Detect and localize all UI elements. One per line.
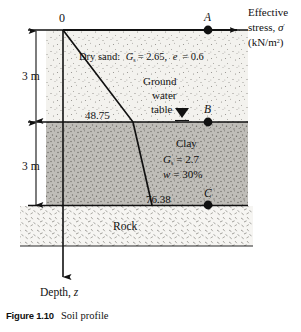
- svg-text:Effective: Effective: [248, 6, 288, 18]
- gwt-line3: table: [151, 103, 172, 115]
- stress-axis-line1: Effective: [248, 6, 288, 18]
- stress-value-c: 76.38: [146, 193, 171, 205]
- clay-gs-value: = 2.7: [176, 153, 199, 165]
- rock-label: Rock: [113, 220, 138, 232]
- point-b-marker: [204, 118, 213, 127]
- svg-text:w= 30%: w= 30%: [163, 168, 202, 180]
- point-a-marker: [204, 26, 213, 35]
- dimension-label-sand: 3 m: [22, 70, 40, 82]
- clay-gs-symbol: G: [163, 153, 171, 165]
- figure-title: Soil profile: [61, 310, 109, 321]
- svg-text:Gs= 2.7: Gs= 2.7: [163, 153, 200, 166]
- stress-axis-line2-prefix: stress,: [248, 21, 278, 33]
- sigma-prime: ′: [283, 23, 285, 29]
- point-c-label: C: [204, 187, 212, 199]
- depth-label-symbol: z: [73, 286, 79, 298]
- svg-text:(kN/m2): (kN/m2): [248, 36, 284, 49]
- origin-label: 0: [59, 11, 65, 25]
- clay-w-symbol: w: [163, 168, 171, 180]
- dry-sand-e-value: = 0.6: [182, 51, 204, 62]
- point-b-label: B: [204, 103, 211, 115]
- gwt-line2: water: [152, 89, 177, 101]
- stress-axis-units-close: ): [280, 36, 284, 49]
- figure-caption: Figure 1.10Soil profile: [6, 310, 296, 321]
- dimension-label-clay: 3 m: [22, 160, 40, 172]
- point-a-label: A: [203, 11, 212, 23]
- depth-label-prefix: Depth,: [40, 286, 74, 299]
- stress-axis-label: Effective stress, σ′ (kN/m2): [248, 6, 288, 49]
- dry-sand-gs-value: = 2.65,: [138, 51, 168, 62]
- dry-sand-e-symbol: e: [173, 51, 178, 62]
- clay-name: Clay: [176, 137, 197, 149]
- stress-axis-units-open: (kN/m: [248, 36, 277, 49]
- point-c-marker: [204, 201, 213, 210]
- figure-number: Figure 1.10: [6, 310, 54, 321]
- svg-text:stress, σ′: stress, σ′: [248, 21, 285, 33]
- stress-value-b: 48.75: [85, 109, 110, 121]
- dry-sand-label: Dry sand: Gs= 2.65, e = 0.6: [79, 51, 204, 63]
- dry-sand-name: Dry sand:: [79, 51, 120, 62]
- gwt-line1: Ground: [143, 75, 177, 87]
- dimension-lines: 3 m 3 m: [22, 31, 40, 205]
- depth-axis-label: Depth, z: [40, 286, 79, 299]
- soil-profile-figure: 3 m 3 m 0 Effective stress, σ′ (kN/m2) D…: [0, 0, 301, 332]
- clay-w-value: = 30%: [173, 168, 202, 180]
